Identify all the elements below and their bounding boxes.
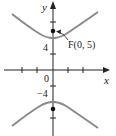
- tick-label-neg4: −4: [37, 88, 48, 99]
- focus-label: F(0, 5): [68, 39, 95, 51]
- focus-arrow-icon: [56, 30, 61, 35]
- tick-label-4: 4: [43, 42, 48, 53]
- hyperbola-diagram: y x 0 4 −4 F(0, 5): [0, 0, 116, 136]
- focus-point-lower: [51, 107, 56, 112]
- x-axis-arrow-icon: [103, 67, 110, 73]
- hyperbola-upper-branch: [12, 12, 98, 38]
- x-axis-label: x: [103, 74, 109, 86]
- origin-label: 0: [44, 73, 49, 84]
- y-axis-arrow-icon: [50, 1, 56, 9]
- hyperbola-lower-branch: [12, 102, 98, 128]
- focus-point-upper: [51, 29, 56, 34]
- y-axis-label: y: [41, 1, 47, 13]
